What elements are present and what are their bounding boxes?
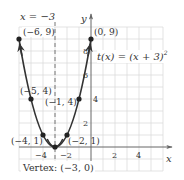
label-point-neg2-1: (−2, 1): [68, 136, 100, 146]
x-tick-2: 2: [112, 151, 117, 160]
label-point-neg5-4: (−5, 4): [20, 86, 52, 96]
y-axis-label: y: [80, 13, 87, 24]
label-point-neg1-4: (−1, 4): [45, 97, 77, 107]
axis-of-symmetry-label: x = −3: [20, 11, 55, 22]
y-tick-8: 8: [83, 47, 88, 56]
x-tick-neg2: −2: [60, 151, 72, 160]
point-neg5-4: [28, 96, 33, 101]
label-point-neg6-9: (−6, 9): [23, 27, 55, 37]
parabola-chart: x = −3 y x (−6, 9) (0, 9) t(x) = (x + 3)…: [0, 0, 184, 180]
x-tick-4: 4: [136, 151, 141, 160]
y-tick-2: 2: [83, 119, 88, 128]
vertex-label: Vertex: (−3, 0): [22, 162, 94, 173]
function-label: t(x) = (x + 3)2: [97, 49, 168, 62]
label-point-0-9: (0, 9): [94, 27, 118, 37]
point-neg6-9: [16, 36, 21, 41]
point-vertex: [52, 144, 57, 149]
x-tick-neg4: −4: [35, 151, 47, 160]
label-point-neg4-1: (−4, 1): [11, 136, 43, 146]
y-tick-6: 6: [83, 71, 88, 80]
x-axis-label: x: [166, 153, 172, 164]
point-0-9: [88, 36, 93, 41]
y-tick-4: 4: [93, 95, 98, 104]
point-neg1-4: [76, 96, 81, 101]
